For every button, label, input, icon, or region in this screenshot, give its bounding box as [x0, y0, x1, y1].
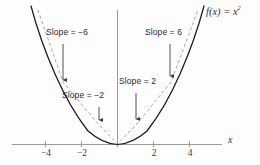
annotation-label-slope-pos-6: Slope = 6	[145, 27, 182, 37]
tick-label-minus-2: −2	[74, 148, 90, 158]
annotation-label-slope-neg-6: Slope = −6	[46, 27, 88, 37]
annotation-label-slope-neg-2: Slope = −2	[62, 90, 104, 100]
function-label: f(x) = x2	[206, 4, 241, 17]
x-axis-label: x	[228, 134, 232, 145]
tick-label-2: 2	[146, 148, 162, 158]
function-label-exponent: 2	[238, 4, 241, 11]
annotation-label-slope-pos-2: Slope = 2	[119, 76, 156, 86]
function-label-base: f(x) = x	[206, 6, 238, 17]
tick-label-4: 4	[182, 148, 198, 158]
tick-label-minus-4: −4	[38, 148, 54, 158]
slope-of-parabola-figure: Slope = −6 Slope = 6 Slope = −2 Slope = …	[0, 0, 260, 165]
